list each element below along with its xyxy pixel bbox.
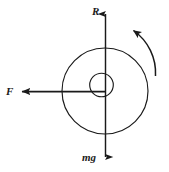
rotation-arrow [134,31,156,77]
diagram-canvas [0,0,169,172]
free-body-diagram: R F mg [0,0,169,172]
weight-label: mg [82,152,96,163]
inner-hub-circle [90,73,114,97]
applied-force-label: F [6,86,13,97]
normal-force-label: R [92,6,99,17]
